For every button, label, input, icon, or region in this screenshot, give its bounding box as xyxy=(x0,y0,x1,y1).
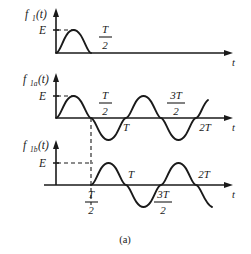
panel-3-tick-half-period-numerator: T xyxy=(88,188,95,200)
panel-2-function-label: f 1a (t) xyxy=(23,73,49,88)
panel-1-waveform xyxy=(56,30,91,53)
panel-1-tick-half-period-numerator: T xyxy=(102,23,109,35)
panel-3-t-axis-arrowhead xyxy=(224,182,233,188)
panel-2-tick-three-half-period: 3T 2 xyxy=(167,89,185,117)
panel-3-amplitude-label: E xyxy=(38,157,46,169)
panel-1-y-axis-arrowhead xyxy=(53,8,59,17)
panel-2-tick-three-half-period-denominator: 2 xyxy=(173,105,179,117)
panel-1: f 1 (t) E T 2 t xyxy=(25,8,236,68)
panel-3: f 1b (t) E T 2 T 3T 2 2T t xyxy=(23,139,236,216)
panel-3-tick-half-period-denominator: 2 xyxy=(88,204,94,216)
panel-3-tick-half-period: T 2 xyxy=(85,188,98,216)
panel-2-function-letter: f xyxy=(23,73,28,86)
panel-2-tick-two-period: 2T xyxy=(199,121,212,133)
panel-3-function-letter: f xyxy=(23,139,28,152)
panel-2-y-axis-arrowhead xyxy=(53,73,59,82)
figure-svg: f 1 (t) E T 2 t xyxy=(0,0,251,254)
panel-1-tick-half-period-denominator: 2 xyxy=(102,39,108,51)
panel-1-function-letter: f xyxy=(25,8,30,21)
panel-3-tick-three-half-period-numerator: 3T xyxy=(156,188,170,200)
panel-1-t-axis-arrowhead xyxy=(224,50,233,56)
panel-1-function-argument: (t) xyxy=(36,8,47,21)
panel-1-tick-half-period: T 2 xyxy=(99,23,112,51)
panel-3-tick-three-half-period: 3T 2 xyxy=(154,188,172,216)
panel-1-function-label: f 1 (t) xyxy=(25,8,47,23)
panel-3-tick-two-period: 2T xyxy=(198,168,211,180)
panel-2-function-subscript: 1a xyxy=(30,79,38,88)
panel-1-amplitude-label: E xyxy=(38,24,46,36)
panel-2-tick-half-period: T 2 xyxy=(99,89,112,117)
waveform-figure: f 1 (t) E T 2 t xyxy=(0,0,251,254)
panel-3-function-label: f 1b (t) xyxy=(23,139,49,154)
panel-1-axis-label: t xyxy=(232,57,236,68)
panel-3-tick-three-half-period-denominator: 2 xyxy=(160,204,166,216)
panel-3-y-axis-arrowhead xyxy=(53,140,59,149)
panel-2-axis-label: t xyxy=(232,122,236,133)
figure-caption: (a) xyxy=(119,234,131,246)
panel-2-tick-three-half-period-numerator: 3T xyxy=(169,89,183,101)
panel-2-tick-half-period-numerator: T xyxy=(102,89,109,101)
panel-2-amplitude-label: E xyxy=(38,90,46,102)
panel-3-tick-period: T xyxy=(128,168,135,180)
panel-3-function-argument: (t) xyxy=(38,139,49,152)
panel-2-tick-half-period-denominator: 2 xyxy=(102,105,108,117)
panel-2-t-axis-arrowhead xyxy=(224,115,233,121)
panel-3-axis-label: t xyxy=(232,189,236,200)
panel-2-function-argument: (t) xyxy=(38,73,49,86)
panel-2-tick-period: T xyxy=(123,121,130,133)
panel-3-function-subscript: 1b xyxy=(30,145,38,154)
